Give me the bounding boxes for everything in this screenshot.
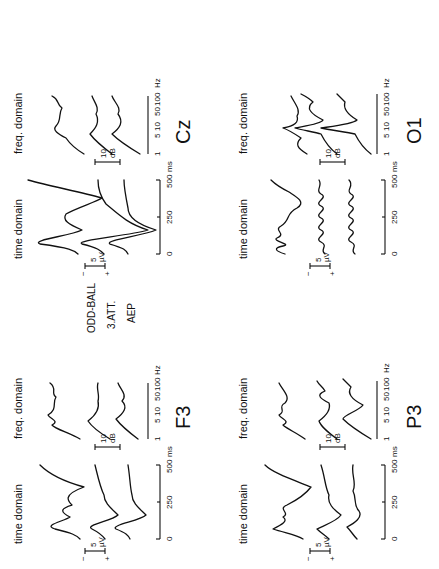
svg-text:+: + — [328, 556, 337, 561]
svg-text:−: − — [79, 556, 88, 561]
svg-text:100: 100 — [153, 377, 162, 391]
time-domain-title: time domain — [12, 484, 24, 544]
svg-text:+: + — [103, 271, 112, 276]
trace-aep — [115, 465, 146, 539]
svg-text:10: 10 — [324, 434, 333, 443]
trace-3att-freq — [295, 94, 337, 154]
svg-text:5: 5 — [153, 133, 162, 138]
trace-3att — [319, 180, 325, 254]
trace-aep — [347, 465, 360, 539]
freq-axis: 1 5 10 50 100 Hz — [377, 78, 391, 156]
svg-text:10: 10 — [382, 122, 391, 131]
svg-text:50: 50 — [382, 392, 391, 401]
svg-text:ms: ms — [165, 446, 174, 457]
amplitude-scale: − + 5 µV — [304, 536, 337, 561]
trace-aep — [109, 180, 156, 254]
channel-label: F3 — [172, 406, 194, 429]
channel-label: P3 — [403, 405, 425, 429]
time-domain-title: time domain — [237, 199, 249, 259]
svg-text:µV: µV — [97, 251, 106, 262]
time-axis: 0 250 500 ms — [381, 446, 399, 541]
freq-domain-title: freq. domain — [12, 93, 24, 154]
svg-text:−: − — [304, 556, 313, 561]
svg-text:250: 250 — [165, 495, 174, 509]
trace-oddball — [271, 180, 301, 254]
freq-domain-title: freq. domain — [237, 378, 249, 439]
svg-text:10: 10 — [382, 407, 391, 416]
svg-text:500: 500 — [165, 459, 174, 473]
trace-3att-freq — [90, 96, 112, 154]
freq-domain-title: freq. domain — [12, 378, 24, 439]
time-axis: 0 250 500 ms — [156, 446, 174, 541]
svg-text:50: 50 — [153, 107, 162, 116]
trace-oddball — [28, 180, 102, 254]
panel-cz: time domain freq. domain − + 5 µV 0 250 — [12, 78, 194, 276]
panel-p3: time domain freq. domain − + 5 µV 0 250 — [237, 363, 425, 561]
panel-f3: time domain freq. domain − + 5 µV — [12, 365, 194, 561]
svg-text:µV: µV — [322, 251, 331, 262]
db-scale: 10 dB — [320, 148, 345, 165]
freq-domain-title: freq. domain — [237, 93, 249, 154]
svg-text:dB: dB — [108, 433, 117, 443]
trace-aep-freq — [343, 379, 371, 439]
svg-text:Hz: Hz — [382, 363, 391, 373]
trace-3att — [317, 465, 341, 539]
svg-text:5: 5 — [382, 418, 391, 423]
freq-axis: 1 5 10 50 100 Hz — [148, 78, 162, 156]
svg-text:0: 0 — [165, 536, 174, 541]
svg-text:dB: dB — [333, 433, 342, 443]
time-axis: 0 250 500 ms — [381, 161, 399, 256]
trace-3att — [91, 465, 118, 539]
channel-label: Cz — [172, 120, 194, 144]
svg-text:100: 100 — [382, 377, 391, 391]
svg-text:ms: ms — [390, 446, 399, 457]
svg-text:ms: ms — [390, 161, 399, 172]
svg-text:10: 10 — [99, 434, 108, 443]
svg-text:1: 1 — [382, 436, 391, 441]
db-scale: 10 dB — [320, 433, 345, 450]
svg-text:−: − — [304, 271, 313, 276]
svg-text:0: 0 — [390, 536, 399, 541]
svg-text:µV: µV — [322, 536, 331, 547]
svg-text:Hz: Hz — [382, 78, 391, 88]
trace-oddball-freq — [279, 383, 305, 439]
svg-text:500: 500 — [165, 174, 174, 188]
trace-aep-freq — [116, 383, 138, 439]
svg-text:250: 250 — [390, 210, 399, 224]
svg-text:100: 100 — [153, 92, 162, 106]
trace-oddball-freq — [48, 383, 80, 439]
trace-oddball-freq — [52, 96, 84, 154]
svg-text:+: + — [328, 271, 337, 276]
trace-3att-freq — [88, 383, 110, 439]
svg-text:50: 50 — [382, 107, 391, 116]
label-aep: AEP — [126, 303, 137, 323]
svg-text:50: 50 — [153, 392, 162, 401]
time-axis: 0 250 500 ms — [156, 161, 174, 256]
svg-text:dB: dB — [108, 148, 117, 158]
svg-text:1: 1 — [382, 151, 391, 156]
svg-text:ms: ms — [165, 161, 174, 172]
time-domain-title: time domain — [237, 484, 249, 544]
channel-label: O1 — [403, 117, 425, 144]
panel-o1: time domain freq. domain − + 5 µV 0 250 — [237, 78, 425, 276]
svg-text:µV: µV — [97, 536, 106, 547]
svg-text:10: 10 — [324, 149, 333, 158]
svg-text:0: 0 — [165, 251, 174, 256]
svg-text:500: 500 — [390, 459, 399, 473]
label-oddball: ODD-BALL — [86, 283, 97, 333]
trace-oddball-freq — [283, 96, 307, 154]
condition-labels: ODD-BALL 3.ATT. AEP — [86, 283, 137, 333]
amplitude-scale: − + 5 µV — [79, 251, 112, 276]
trace-oddball — [40, 465, 84, 539]
svg-text:10: 10 — [153, 407, 162, 416]
svg-text:1: 1 — [153, 436, 162, 441]
svg-text:5: 5 — [153, 418, 162, 423]
svg-text:+: + — [103, 556, 112, 561]
svg-text:Hz: Hz — [153, 78, 162, 88]
trace-oddball — [265, 465, 311, 539]
label-3att: 3.ATT. — [106, 301, 117, 329]
db-scale: 10 dB — [95, 148, 120, 165]
freq-axis: 1 5 10 50 100 Hz — [148, 365, 162, 441]
svg-text:250: 250 — [390, 495, 399, 509]
svg-text:Hz: Hz — [153, 365, 162, 375]
